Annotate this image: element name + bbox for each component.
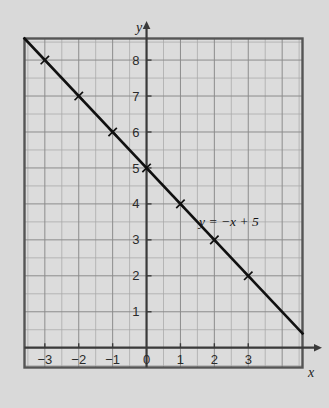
x-tick-label: −3	[37, 352, 52, 367]
x-tick-label: 2	[211, 352, 218, 367]
y-tick-label: 8	[132, 53, 139, 68]
y-axis-label: y	[134, 20, 143, 35]
y-tick-label: 4	[132, 196, 139, 211]
x-axis-label: x	[307, 365, 315, 380]
y-axis-arrowhead	[143, 21, 151, 29]
graph-figure: −3−2−10123 12345678 x y y = −x + 5	[0, 0, 329, 408]
x-axis-arrowhead	[314, 344, 322, 352]
y-tick-label: 5	[132, 161, 139, 176]
y-tick-label: 1	[132, 304, 139, 319]
x-tick-label: 0	[143, 352, 150, 367]
x-tick-label: 3	[245, 352, 252, 367]
x-tick-label: 1	[177, 352, 184, 367]
y-tick-label: 6	[132, 125, 139, 140]
y-tick-label: 2	[132, 268, 139, 283]
coordinate-plane: −3−2−10123 12345678 x y y = −x + 5	[0, 0, 329, 408]
x-tick-label: −1	[105, 352, 120, 367]
y-tick-label: 3	[132, 232, 139, 247]
x-tick-label: −2	[71, 352, 86, 367]
y-tick-label: 7	[132, 89, 139, 104]
equation-annotation: y = −x + 5	[197, 214, 259, 229]
